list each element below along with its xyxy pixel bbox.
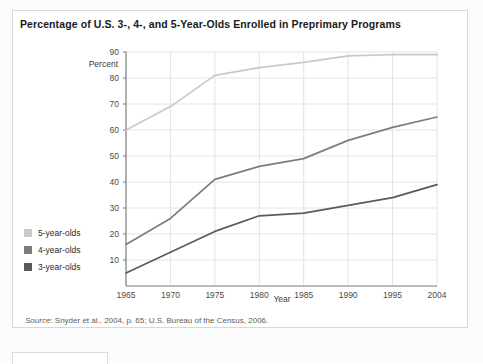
x-tick-label: 1995	[383, 290, 402, 300]
x-tick-label: 1970	[161, 290, 180, 300]
legend-item-3-year-olds: 3-year-olds	[24, 258, 110, 275]
series-line-4-year-olds	[126, 117, 437, 244]
x-tick-label: 1975	[205, 290, 224, 300]
y-tick-label: 10	[110, 255, 120, 265]
series-line-5-year-olds	[126, 55, 437, 130]
y-tick-label: 90	[110, 47, 120, 57]
x-tick-label: 2004	[428, 290, 447, 300]
legend-label-4-year-olds: 4-year-olds	[38, 245, 81, 255]
y-tick-label: 80	[110, 73, 120, 83]
source-note: Source: Snyder et al., 2004, p. 65; U.S.…	[25, 316, 268, 325]
x-tick-label: 1965	[117, 290, 136, 300]
y-tick-label: 40	[110, 177, 120, 187]
y-axis-tick-labels: 102030405060708090	[110, 47, 120, 265]
legend-swatch-4-year-olds	[24, 246, 32, 254]
y-tick-label: 20	[110, 229, 120, 239]
page-bottom-strip	[12, 352, 108, 364]
legend-item-4-year-olds: 4-year-olds	[24, 241, 110, 258]
y-axis-title: Percent	[89, 59, 119, 69]
series-lines-group	[126, 55, 437, 273]
legend-item-5-year-olds: 5-year-olds	[24, 224, 110, 241]
legend-swatch-5-year-olds	[24, 229, 32, 237]
source-citation: : Snyder et al., 2004, p. 65; U.S. Burea…	[50, 316, 268, 325]
gridlines-group	[126, 52, 437, 260]
chart-legend: 5-year-olds 4-year-olds 3-year-olds	[24, 224, 110, 275]
x-tick-label: 1980	[250, 290, 269, 300]
legend-swatch-3-year-olds	[24, 263, 32, 271]
y-tick-label: 50	[110, 151, 120, 161]
y-tick-label: 60	[110, 125, 120, 135]
x-tick-label: 1985	[294, 290, 313, 300]
y-tick-label: 70	[110, 99, 120, 109]
legend-label-5-year-olds: 5-year-olds	[38, 228, 81, 238]
source-label: Source	[25, 316, 50, 325]
y-tick-label: 30	[110, 203, 120, 213]
x-axis-title: Year	[273, 294, 290, 304]
x-tick-label: 1990	[339, 290, 358, 300]
legend-label-3-year-olds: 3-year-olds	[38, 262, 81, 272]
